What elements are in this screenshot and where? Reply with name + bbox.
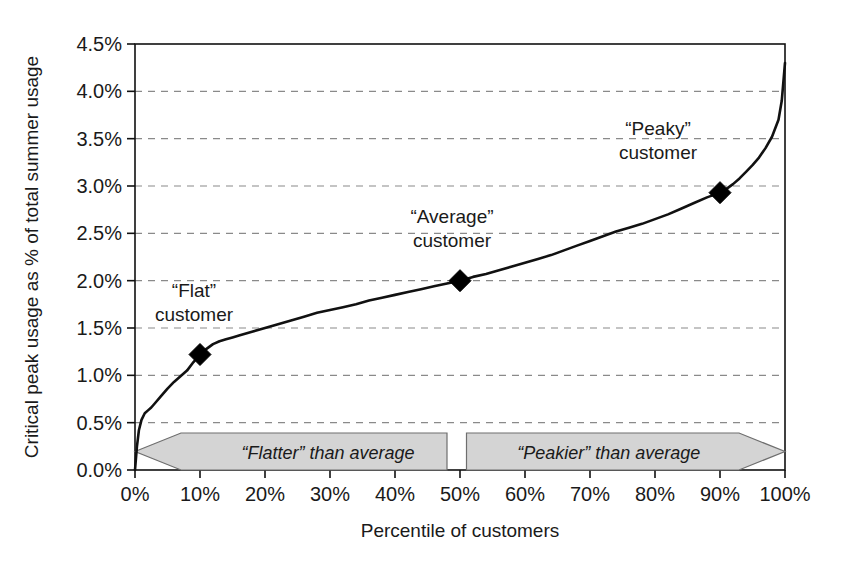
x-tick-label-4: 40% <box>375 483 415 505</box>
x-tick-label-1: 10% <box>180 483 220 505</box>
x-tick-label-9: 90% <box>700 483 740 505</box>
x-tick-label-3: 30% <box>310 483 350 505</box>
y-tick-label-2: 1.0% <box>76 364 122 386</box>
flat-customer-label-line2: customer <box>155 304 234 325</box>
y-axis-title: Critical peak usage as % of total summer… <box>21 56 42 458</box>
y-tick-label-1: 0.5% <box>76 412 122 434</box>
y-tick-label-3: 1.5% <box>76 317 122 339</box>
average-customer-label-line1: “Average” <box>410 206 493 227</box>
average-customer-label-line2: customer <box>413 230 492 251</box>
chart-container: 0.0%0.5%1.0%1.5%2.0%2.5%3.0%3.5%4.0%4.5%… <box>0 0 856 562</box>
y-tick-label-6: 3.0% <box>76 175 122 197</box>
peaky-customer-label-line1: “Peaky” <box>625 118 690 139</box>
x-tick-label-10: 100% <box>759 483 810 505</box>
x-tick-label-2: 20% <box>245 483 285 505</box>
flatter-banner-label: “Flatter” than average <box>241 443 414 463</box>
y-tick-label-7: 3.5% <box>76 128 122 150</box>
x-tick-label-7: 70% <box>570 483 610 505</box>
x-tick-label-8: 80% <box>635 483 675 505</box>
x-tick-label-5: 50% <box>440 483 480 505</box>
x-axis-title: Percentile of customers <box>361 520 560 541</box>
y-tick-label-8: 4.0% <box>76 80 122 102</box>
peakier-banner-label: “Peakier” than average <box>517 443 700 463</box>
peaky-customer-label-line2: customer <box>619 142 698 163</box>
cumulative-distribution-chart: 0.0%0.5%1.0%1.5%2.0%2.5%3.0%3.5%4.0%4.5%… <box>0 0 856 562</box>
x-tick-label-6: 60% <box>505 483 545 505</box>
flat-customer-label-line1: “Flat” <box>172 280 216 301</box>
y-tick-label-0: 0.0% <box>76 459 122 481</box>
x-tick-label-0: 0% <box>121 483 150 505</box>
y-tick-label-9: 4.5% <box>76 33 122 55</box>
y-tick-label-5: 2.5% <box>76 222 122 244</box>
y-tick-label-4: 2.0% <box>76 270 122 292</box>
